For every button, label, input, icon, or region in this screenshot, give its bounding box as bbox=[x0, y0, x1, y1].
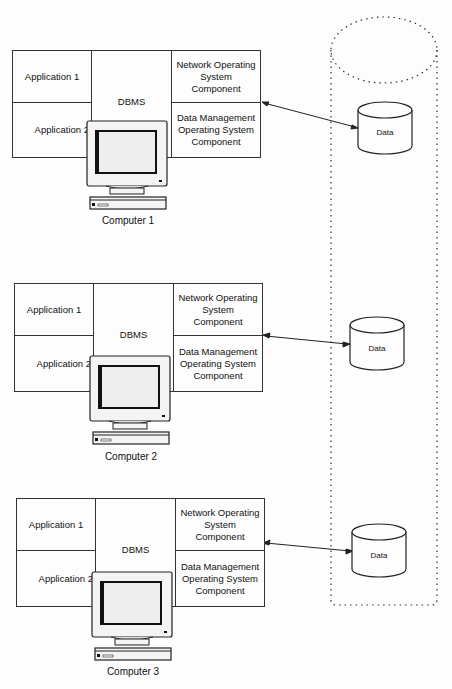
application-1-cell: Application 1 bbox=[14, 283, 94, 336]
application-2-cell: Application 2 bbox=[12, 102, 92, 158]
application-2-cell: Application 2 bbox=[16, 550, 96, 607]
network-os-label: Network Operating System Component bbox=[177, 292, 259, 328]
dbms-label: DBMS bbox=[122, 544, 149, 556]
application-1-label: Application 1 bbox=[27, 304, 81, 316]
dbms-label: DBMS bbox=[120, 329, 147, 341]
data-management-os-label: Data Management Operating System Compone… bbox=[175, 112, 257, 148]
computer-icon-3 bbox=[91, 571, 175, 653]
data-store-label-3: Data bbox=[359, 551, 399, 560]
application-2-label: Application 2 bbox=[39, 573, 93, 585]
data-management-os-label: Data Management Operating System Compone… bbox=[179, 561, 261, 597]
data-management-os-cell: Data Management Operating System Compone… bbox=[175, 550, 265, 607]
network-os-cell: Network Operating System Component bbox=[175, 498, 265, 551]
network-os-label: Network Operating System Component bbox=[179, 507, 261, 543]
computer-icon-1 bbox=[86, 120, 170, 202]
data-management-os-cell: Data Management Operating System Compone… bbox=[173, 335, 263, 392]
connection-arrow-2 bbox=[263, 333, 350, 347]
application-2-cell: Application 2 bbox=[14, 335, 94, 392]
network-os-cell: Network Operating System Component bbox=[173, 283, 263, 336]
connection-arrow-1 bbox=[262, 102, 358, 129]
computer-icon-2 bbox=[89, 355, 173, 437]
application-1-cell: Application 1 bbox=[12, 50, 92, 103]
network-os-label: Network Operating System Component bbox=[175, 59, 257, 95]
application-1-cell: Application 1 bbox=[16, 498, 96, 551]
computer-label-2: Computer 2 bbox=[81, 451, 181, 462]
application-1-label: Application 1 bbox=[25, 71, 79, 83]
application-2-label: Application 2 bbox=[37, 358, 91, 370]
computer-base-icon-2 bbox=[92, 431, 170, 445]
data-store-label-2: Data bbox=[357, 344, 397, 353]
data-store-label-1: Data bbox=[365, 128, 405, 137]
data-management-os-label: Data Management Operating System Compone… bbox=[177, 346, 259, 382]
computer-label-3: Computer 3 bbox=[83, 666, 183, 677]
application-2-label: Application 2 bbox=[35, 124, 89, 136]
dbms-label: DBMS bbox=[118, 96, 145, 108]
network-os-cell: Network Operating System Component bbox=[171, 50, 261, 103]
application-1-label: Application 1 bbox=[29, 519, 83, 531]
data-management-os-cell: Data Management Operating System Compone… bbox=[171, 102, 261, 158]
connection-arrow-3 bbox=[263, 540, 353, 554]
computer-label-1: Computer 1 bbox=[78, 215, 178, 226]
computer-base-icon-1 bbox=[89, 196, 167, 210]
computer-base-icon-3 bbox=[94, 647, 172, 661]
